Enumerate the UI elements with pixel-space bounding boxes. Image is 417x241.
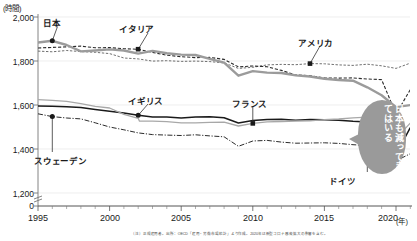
- chart-footnote: （注）正規雇用者。出所：OECD「雇用・労働市場統計」より作成。2020年は新型…: [131, 232, 415, 237]
- x-tick-2010: 2010: [235, 213, 271, 223]
- callout-usa: [308, 46, 320, 66]
- x-tick-marks: [38, 206, 396, 211]
- series-label-france: フランス: [232, 97, 267, 109]
- callout-italy: [136, 33, 148, 52]
- series-label-sweden: スウェーデン: [34, 154, 87, 166]
- speech-bubble-text: 日本も減ってきてはいる: [360, 104, 404, 172]
- x-tick-2005: 2005: [163, 213, 199, 223]
- chart-root: (時間): [0, 0, 417, 241]
- y-tick-0: 0: [2, 201, 34, 211]
- y-tick-1600: 1,600: [2, 101, 34, 111]
- x-axis-unit-label: (年): [396, 215, 408, 226]
- y-tick-2000: 2,000: [2, 13, 34, 23]
- series-label-uk: イギリス: [128, 94, 163, 106]
- y-tick-1200: 1,200: [2, 189, 34, 199]
- y-tick-1400: 1,400: [2, 145, 34, 155]
- x-tick-2000: 2000: [92, 213, 128, 223]
- series-label-usa: アメリカ: [298, 36, 333, 48]
- series-line-japan: [38, 41, 410, 107]
- series-line-italy: [38, 46, 410, 114]
- callout-france: [251, 107, 256, 126]
- y-tick-1800: 1,800: [2, 57, 34, 67]
- gridlines: [38, 17, 410, 193]
- series-label-japan: 日本: [43, 16, 61, 28]
- y-tick-marks: [34, 17, 38, 206]
- series-line-uk: [38, 106, 410, 154]
- series-label-germany: ドイツ: [329, 174, 355, 186]
- series-label-italy: イタリア: [119, 22, 154, 34]
- chart-plot-area: [0, 0, 417, 241]
- callout-sweden: [50, 114, 55, 152]
- x-tick-2015: 2015: [306, 213, 342, 223]
- x-tick-1995: 1995: [20, 213, 56, 223]
